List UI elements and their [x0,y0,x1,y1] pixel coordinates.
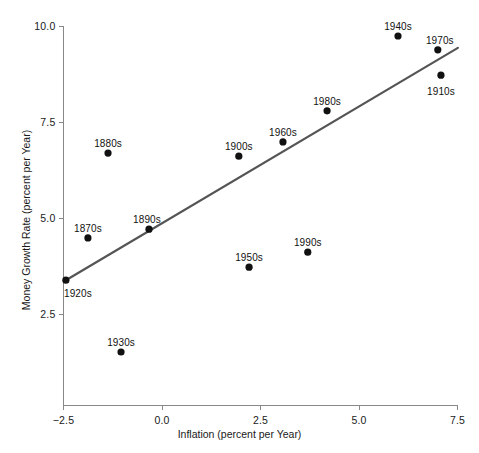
data-point-label: 1940s [384,21,412,32]
data-point-label: 1880s [94,138,122,149]
data-point-marker[interactable] [437,72,444,79]
data-point-label: 1900s [225,141,253,152]
data-point-label: 1960s [269,127,297,138]
scatter-chart-figure: 2.55.07.510.0−2.50.02.55.07.5 1920s1870s… [0,0,479,453]
plot-canvas [0,0,479,453]
data-point-label: 1950s [235,252,263,263]
data-point-marker[interactable] [245,264,252,271]
data-point-label: 1980s [313,96,341,107]
data-point-marker[interactable] [434,46,441,53]
x-tick-label: −2.5 [53,414,75,426]
data-point-marker[interactable] [84,234,91,241]
x-tick-label: 5.0 [351,414,366,426]
data-point-label: 1970s [426,35,454,46]
trendline [66,48,458,280]
data-point-marker[interactable] [62,277,69,284]
data-point-marker[interactable] [117,348,124,355]
data-point-label: 1870s [74,223,102,234]
x-tick-label: 7.5 [450,414,465,426]
data-point-marker[interactable] [279,138,286,145]
data-point-marker[interactable] [394,32,401,39]
data-point-marker[interactable] [304,249,311,256]
data-point-label: 1990s [294,237,322,248]
data-point-label: 1920s [64,288,92,299]
x-tick-label: 2.5 [253,414,268,426]
data-point-marker[interactable] [323,107,330,114]
y-axis-title: Money Growth Rate (percent per Year) [20,110,32,330]
data-point-marker[interactable] [235,153,242,160]
y-tick-label: 10.0 [24,20,56,32]
data-point-label: 1930s [107,337,135,348]
data-point-label: 1910s [427,86,455,97]
data-point-label: 1890s [133,214,161,225]
data-point-marker[interactable] [145,226,152,233]
trendline-group [66,48,458,280]
x-tick-label: 0.0 [154,414,169,426]
data-point-marker[interactable] [104,150,111,157]
data-points-group [62,32,444,355]
x-axis-title: Inflation (percent per Year) [0,428,479,440]
